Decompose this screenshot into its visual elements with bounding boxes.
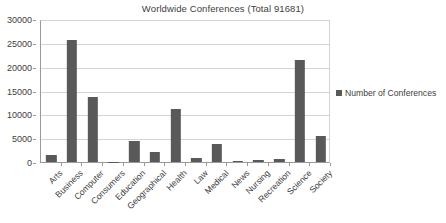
y-axis-tick-label: 5000 [12, 134, 32, 144]
y-axis: 050001000015000200002500030000 [0, 20, 36, 163]
bar[interactable] [274, 159, 284, 162]
x-axis-tick-mark [330, 163, 331, 166]
x-axis-tick-mark [61, 163, 62, 166]
y-axis-tick-label: 15000 [7, 87, 32, 97]
y-axis-tick-mark [33, 44, 36, 45]
bar[interactable] [233, 161, 243, 162]
bar-slot [186, 21, 207, 162]
bar-slot [103, 21, 124, 162]
x-axis-tick-label: Health [164, 168, 189, 193]
x-axis-tick-mark [309, 163, 310, 166]
bar[interactable] [170, 109, 180, 162]
x-axis-tick-mark [226, 163, 227, 166]
y-axis-tick-label: 0 [27, 158, 32, 168]
x-axis-tick-mark [81, 163, 82, 166]
x-axis-tick-mark [268, 163, 269, 166]
bar-slot [310, 21, 331, 162]
y-axis-tick-mark [33, 115, 36, 116]
bar-slot [62, 21, 83, 162]
y-axis-tick-mark [33, 92, 36, 93]
bar-slot [82, 21, 103, 162]
bar-slot [145, 21, 166, 162]
bar[interactable] [295, 60, 305, 162]
y-axis-tick-mark [33, 139, 36, 140]
y-axis-tick-label: 25000 [7, 39, 32, 49]
bar[interactable] [88, 97, 98, 162]
x-axis-tick-mark [289, 163, 290, 166]
chart-legend: Number of Conferences [336, 88, 436, 98]
bar[interactable] [315, 136, 325, 162]
legend-swatch-number-of-conferences [336, 90, 342, 96]
x-axis-tick-mark [185, 163, 186, 166]
y-axis-tick-mark [33, 20, 36, 21]
bars-layer [41, 21, 329, 162]
bar-slot [248, 21, 269, 162]
bar-chart: Worldwide Conferences (Total 91681) 0500… [0, 0, 446, 223]
x-axis-tick-mark [164, 163, 165, 166]
bar-slot [269, 21, 290, 162]
plot-area [40, 20, 330, 163]
x-axis-tick-mark [123, 163, 124, 166]
bar[interactable] [150, 152, 160, 162]
bar-slot [124, 21, 145, 162]
bar[interactable] [67, 40, 77, 163]
bar[interactable] [46, 155, 56, 162]
bar[interactable] [129, 141, 139, 162]
x-axis-tick-mark [247, 163, 248, 166]
x-axis: ArtsBusinessComputerConsumersEducationGe… [40, 166, 330, 223]
x-axis-tick-mark [102, 163, 103, 166]
bar[interactable] [212, 144, 222, 162]
bar-slot [165, 21, 186, 162]
legend-label-number-of-conferences: Number of Conferences [345, 88, 436, 98]
y-axis-tick-mark [33, 163, 36, 164]
bar-slot [207, 21, 228, 162]
y-axis-tick-label: 20000 [7, 63, 32, 73]
x-axis-tick-mark [144, 163, 145, 166]
bar-slot [41, 21, 62, 162]
x-axis-tick-mark [206, 163, 207, 166]
bar-slot [227, 21, 248, 162]
y-axis-tick-mark [33, 68, 36, 69]
y-axis-tick-label: 30000 [7, 15, 32, 25]
bar[interactable] [253, 160, 263, 162]
chart-title: Worldwide Conferences (Total 91681) [0, 3, 446, 14]
y-axis-tick-label: 10000 [7, 110, 32, 120]
bar-slot [290, 21, 311, 162]
bar[interactable] [191, 158, 201, 162]
